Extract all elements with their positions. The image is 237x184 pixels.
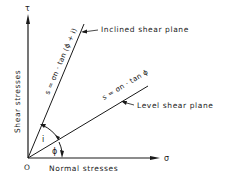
level-shear-plane-line (28, 86, 148, 158)
i-angle-label: i (42, 135, 44, 144)
y-axis-symbol: τ (25, 4, 30, 13)
level-shear-plane-label: Level shear plane (137, 101, 214, 110)
x-axis-arrow-icon (150, 156, 160, 160)
x-axis-symbol: σ (164, 154, 169, 163)
inclined-equation: s = σn · tan (ϕ + i) (43, 27, 78, 96)
inclined-shear-plane-line (28, 24, 84, 158)
y-axis-arrow-icon (26, 14, 30, 24)
phi-angle-label: ϕ (52, 147, 57, 156)
inclined-shear-plane-label: Inclined shear plane (101, 25, 189, 34)
level-equation: s = σn · tan ϕ (101, 68, 150, 102)
x-axis-label: Normal stresses (49, 164, 118, 173)
i-arc (42, 125, 59, 140)
y-axis-label: Shear stresses (13, 70, 22, 133)
level-leader-arrow-icon (121, 101, 127, 105)
shear-strength-diagram: τ Shear stresses σ Normal stresses O s =… (0, 0, 237, 184)
phi-arc-arrow-icon (60, 150, 64, 158)
origin-label: O (24, 163, 31, 172)
